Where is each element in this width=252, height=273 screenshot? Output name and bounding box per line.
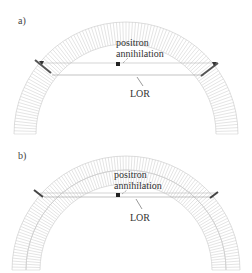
annihilation-label-b: annihilation [114, 180, 162, 191]
annihilation-point-a [116, 62, 120, 66]
panel-label-a: a) [18, 15, 26, 26]
positron-label-a: positron [116, 37, 149, 48]
panel-b: b) positron annihilation LOR [0, 136, 252, 273]
positron-label-b: positron [114, 169, 147, 180]
pet-detector-ring-diagram-b [0, 136, 252, 273]
pet-detector-ring-diagram-a [0, 0, 252, 136]
annihilation-point-b [116, 193, 120, 197]
panel-a: a) positron annihilation LOR [0, 0, 252, 136]
lor-leader-a [137, 77, 143, 86]
lor-label-b: LOR [130, 212, 150, 223]
panel-label-b: b) [18, 150, 26, 161]
annihilation-label-a: annihilation [116, 48, 164, 59]
detector-hit-right-a [201, 63, 218, 76]
lor-label-a: LOR [130, 88, 150, 99]
lor-leader-b [136, 199, 142, 209]
